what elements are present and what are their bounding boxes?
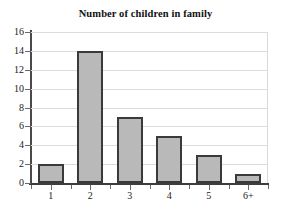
y-axis-tick-label: 0	[19, 178, 24, 188]
bar	[235, 174, 261, 183]
x-axis-tick-label: 3	[127, 190, 132, 201]
x-axis-tick-label: 4	[167, 190, 172, 201]
x-axis-boundary-tick	[229, 185, 230, 189]
plot-area	[31, 32, 268, 183]
y-axis-tick	[25, 183, 31, 184]
y-axis-tick	[25, 51, 31, 52]
y-axis-tick-label: 8	[19, 103, 24, 113]
bar	[156, 136, 182, 183]
y-axis-tick-label: 2	[19, 159, 24, 169]
y-axis-tick	[25, 164, 31, 165]
x-axis-boundary-tick	[31, 185, 32, 189]
x-axis-boundary-tick	[268, 185, 269, 189]
x-axis-tick-label: 1	[48, 190, 53, 201]
gridline	[31, 145, 268, 146]
y-axis-tick	[25, 126, 31, 127]
y-axis-tick	[25, 89, 31, 90]
gridline	[31, 32, 268, 33]
x-axis-boundary-tick	[189, 185, 190, 189]
bar	[77, 51, 103, 183]
y-axis-tick	[25, 70, 31, 71]
x-axis-boundary-tick	[110, 185, 111, 189]
x-axis-tick-label: 5	[206, 190, 211, 201]
y-axis-tick	[25, 108, 31, 109]
x-axis-boundary-tick	[71, 185, 72, 189]
gridline	[31, 164, 268, 165]
gridline	[31, 108, 268, 109]
x-axis-boundary-tick	[150, 185, 151, 189]
y-axis-tick-label: 10	[14, 84, 24, 94]
chart-title: Number of children in family	[0, 8, 291, 19]
gridline	[31, 51, 268, 52]
x-axis-tick-label: 2	[88, 190, 93, 201]
gridline	[31, 126, 268, 127]
y-axis-tick	[25, 145, 31, 146]
y-axis-tick-label: 12	[14, 65, 24, 75]
bar	[117, 117, 143, 183]
y-axis-tick	[25, 32, 31, 33]
bar	[196, 155, 222, 183]
bar-chart: Number of children in family 02468101214…	[0, 0, 291, 205]
y-axis-tick-label: 4	[19, 140, 24, 150]
y-axis-tick-label: 16	[14, 27, 24, 37]
gridline	[31, 89, 268, 90]
y-axis-tick-label: 6	[19, 121, 24, 131]
gridline	[31, 70, 268, 71]
x-axis-tick-label: 6+	[243, 190, 254, 201]
y-axis-tick-label: 14	[14, 46, 24, 56]
bar	[38, 164, 64, 183]
